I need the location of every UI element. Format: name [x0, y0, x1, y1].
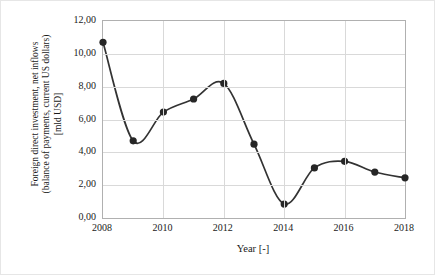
x-axis-tick-label: 2010	[139, 223, 185, 233]
x-axis-tick-label: 2018	[381, 223, 427, 233]
x-axis-tick-label: 2016	[321, 223, 367, 233]
plot-area: 2008: 10.72009: 4.72010: 6.452011: 7.252…	[102, 20, 406, 219]
gridline-vertical	[345, 21, 346, 218]
data-point-marker: 2013: 4.5	[250, 141, 257, 148]
data-point-marker: 2017: 2.8	[371, 168, 378, 175]
gridline-horizontal	[103, 54, 405, 55]
y-axis-title-line-3: [mld USD]	[53, 93, 65, 136]
x-axis-tick-label: 2014	[260, 223, 306, 233]
series-markers: 2008: 10.72009: 4.72010: 6.452011: 7.252…	[99, 39, 408, 208]
data-point-marker: 2009: 4.7	[130, 137, 137, 144]
chart-figure: Foreign direct investment, net inflows (…	[0, 0, 435, 275]
x-axis-title: Year [-]	[102, 243, 404, 255]
x-axis-tick-label: 2012	[200, 223, 246, 233]
gridline-horizontal	[103, 185, 405, 186]
series-line	[103, 42, 405, 204]
gridline-vertical	[224, 21, 225, 218]
gridline-horizontal	[103, 120, 405, 121]
gridline-horizontal	[103, 152, 405, 153]
gridline-vertical	[163, 21, 164, 218]
data-point-marker: 2011: 7.25	[190, 95, 197, 102]
y-axis-title-line-1: Foreign direct investment, net inflows	[30, 42, 42, 187]
data-point-marker: 2008: 10.7	[99, 39, 106, 46]
data-point-marker: 2018: 2.45	[401, 174, 408, 181]
data-point-marker: 2015: 3.05	[311, 164, 318, 171]
y-axis-title-line-2: (balance of payments, current US dollars…	[41, 35, 53, 194]
gridline-vertical	[284, 21, 285, 218]
y-axis-title: Foreign direct investment, net inflows (…	[23, 9, 71, 219]
gridline-horizontal	[103, 87, 405, 88]
x-axis-tick-label: 2008	[79, 223, 125, 233]
